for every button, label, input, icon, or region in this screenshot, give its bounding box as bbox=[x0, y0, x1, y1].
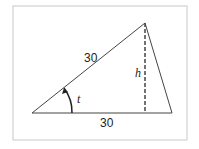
hypotenuse-label: 30 bbox=[84, 51, 98, 65]
height-label: h bbox=[135, 66, 141, 80]
triangle bbox=[32, 23, 172, 113]
angle-label: t bbox=[77, 92, 81, 106]
base-label: 30 bbox=[100, 116, 114, 130]
triangle-diagram: 30 30 h t bbox=[0, 0, 199, 149]
